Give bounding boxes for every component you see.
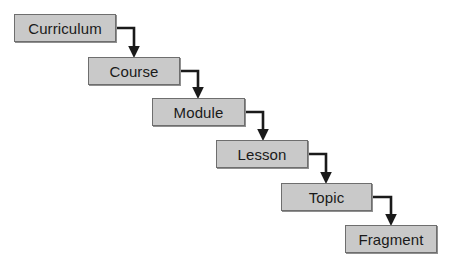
- node-module[interactable]: Module: [152, 98, 245, 126]
- node-label-module: Module: [174, 105, 224, 120]
- node-course[interactable]: Course: [88, 57, 180, 85]
- node-curriculum[interactable]: Curriculum: [14, 14, 116, 42]
- node-fragment[interactable]: Fragment: [345, 225, 437, 253]
- connector-topic-to-fragment: [372, 197, 397, 226]
- connector-course-to-module: [180, 71, 204, 99]
- connector-lesson-to-topic: [308, 154, 332, 184]
- diagram-canvas: Curriculum Course Module Lesson Topic Fr…: [0, 0, 450, 261]
- node-label-fragment: Fragment: [359, 232, 424, 247]
- node-label-course: Course: [110, 64, 159, 79]
- node-label-curriculum: Curriculum: [28, 21, 102, 36]
- connector-module-to-lesson: [245, 112, 269, 141]
- connector-curriculum-to-course: [116, 28, 140, 58]
- node-label-topic: Topic: [309, 190, 345, 205]
- node-lesson[interactable]: Lesson: [216, 140, 308, 168]
- node-label-lesson: Lesson: [238, 147, 287, 162]
- node-topic[interactable]: Topic: [281, 183, 372, 211]
